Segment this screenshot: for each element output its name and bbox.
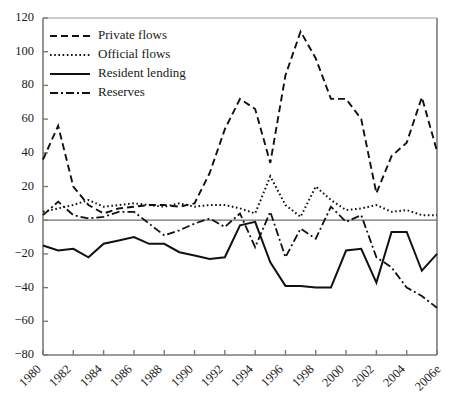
- series-line-reserves: [43, 202, 437, 308]
- legend-label-official-flows: Official flows: [98, 46, 170, 62]
- series-line-official-flows: [43, 176, 437, 216]
- legend-label-private-flows: Private flows: [98, 27, 167, 43]
- y-tick-label: −60: [0, 313, 34, 328]
- legend-label-reserves: Reserves: [98, 84, 145, 100]
- y-tick-label: 120: [0, 10, 34, 25]
- y-tick-label: 40: [0, 145, 34, 160]
- chart-figure: −80−60−40−20020406080100120 198019821984…: [0, 0, 456, 420]
- chart-svg: [0, 0, 456, 420]
- y-tick-label: −40: [0, 280, 34, 295]
- y-tick-label: 60: [0, 111, 34, 126]
- y-tick-label: −20: [0, 246, 34, 261]
- y-tick-label: 20: [0, 179, 34, 194]
- y-tick-label: 100: [0, 44, 34, 59]
- y-tick-label: 0: [0, 212, 34, 227]
- series-line-resident-lending: [43, 222, 437, 288]
- y-tick-label: −80: [0, 347, 34, 362]
- legend-line-samples: [50, 36, 90, 93]
- y-tick-label: 80: [0, 77, 34, 92]
- legend-label-resident-lending: Resident lending: [98, 65, 186, 81]
